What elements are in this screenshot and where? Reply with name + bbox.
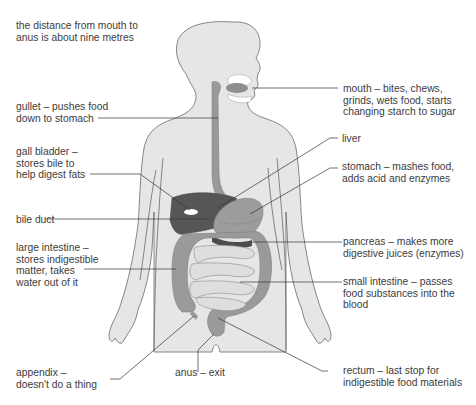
label-stomach: stomach – mashes food, adds acid and enz… [342,161,454,184]
label-small-intestine-line-3: blood [343,299,455,311]
label-mouth-line-3: changing starch to sugar [343,106,456,118]
gall-bladder-organ [184,209,198,215]
label-anus-line-1: anus – exit [175,367,225,379]
label-small-intestine: small intestine – passes food substances… [343,276,455,311]
label-rectum-line-2: indigestible food materials [343,377,462,389]
label-small-intestine-line-2: food substances into the [343,288,455,300]
label-gall-bladder-line-3: help digest fats [16,169,85,181]
label-mouth: mouth – bites, chews, grinds, wets food,… [343,83,456,118]
label-large-intestine-line-2: stores indigestible [16,254,98,266]
label-large-intestine: large intestine – stores indigestible ma… [16,242,98,288]
note-line-1: the distance from mouth to [16,20,138,32]
label-appendix-line-1: appendix – [16,367,97,379]
note-line-2: anus is about nine metres [16,32,138,44]
label-anus: anus – exit [175,367,225,379]
label-liver: liver [342,133,361,145]
label-bile-duct-line-1: bile duct [16,214,54,226]
label-pancreas-line-1: pancreas – makes more [343,236,464,248]
label-pancreas-line-2: digestive juices (enzymes) [343,248,464,260]
label-gullet-line-2: down to stomach [16,113,108,125]
label-stomach-line-2: adds acid and enzymes [342,173,454,185]
label-appendix-line-2: doesn't do a thing [16,379,97,391]
digestive-system-figure [0,0,476,405]
label-gullet: gullet – pushes food down to stomach [16,101,108,124]
label-large-intestine-line-3: matter, takes [16,265,98,277]
label-large-intestine-line-1: large intestine – [16,242,98,254]
distance-note: the distance from mouth to anus is about… [16,20,138,43]
label-bile-duct: bile duct [16,214,54,226]
label-gall-bladder-line-1: gall bladder – [16,146,85,158]
label-large-intestine-line-4: water out of it [16,277,98,289]
label-gall-bladder: gall bladder – stores bile to help diges… [16,146,85,181]
label-appendix: appendix – doesn't do a thing [16,367,97,390]
label-liver-line-1: liver [342,133,361,145]
label-rectum: rectum – last stop for indigestible food… [343,365,462,388]
label-rectum-line-1: rectum – last stop for [343,365,462,377]
label-mouth-line-1: mouth – bites, chews, [343,83,456,95]
label-gall-bladder-line-2: stores bile to [16,158,85,170]
label-gullet-line-1: gullet – pushes food [16,101,108,113]
label-small-intestine-line-1: small intestine – passes [343,276,455,288]
label-stomach-line-1: stomach – mashes food, [342,161,454,173]
label-pancreas: pancreas – makes more digestive juices (… [343,236,464,259]
label-mouth-line-2: grinds, wets food, starts [343,95,456,107]
